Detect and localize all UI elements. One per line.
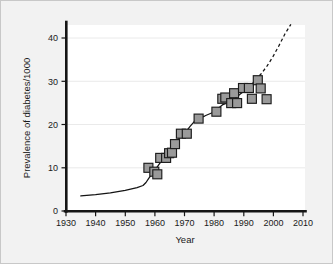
data-point <box>153 170 162 179</box>
diabetes-prevalence-chart: 0 10 20 30 40 1930 1940 1950 1960 1970 1… <box>0 0 333 264</box>
data-point <box>244 84 253 93</box>
figure-container: 0 10 20 30 40 1930 1940 1950 1960 1970 1… <box>0 0 333 264</box>
y-axis-tick-labels: 0 10 20 30 40 <box>48 33 58 216</box>
plot-area-background <box>66 25 305 211</box>
x-tick-label-1990: 1990 <box>234 218 254 228</box>
data-point <box>256 84 265 93</box>
y-tick-label-40: 40 <box>48 33 58 43</box>
x-tick-label-2010: 2010 <box>293 218 313 228</box>
y-axis-title: Prevalence of diabetes/1000 <box>21 58 32 178</box>
x-axis-title: Year <box>175 234 194 245</box>
data-point <box>212 107 221 116</box>
x-tick-label-1930: 1930 <box>56 218 76 228</box>
data-point <box>171 140 180 149</box>
data-point <box>262 95 271 104</box>
x-tick-label-2000: 2000 <box>263 218 283 228</box>
x-tick-label-1950: 1950 <box>115 218 135 228</box>
y-tick-label-20: 20 <box>48 120 58 130</box>
x-tick-label-1960: 1960 <box>145 218 165 228</box>
data-point <box>182 129 191 138</box>
data-point <box>233 99 242 108</box>
x-tick-label-1940: 1940 <box>86 218 106 228</box>
x-tick-label-1980: 1980 <box>204 218 224 228</box>
y-tick-label-10: 10 <box>48 163 58 173</box>
data-point <box>194 114 203 123</box>
y-tick-label-0: 0 <box>53 206 58 216</box>
data-point <box>230 89 239 98</box>
data-point <box>247 94 256 103</box>
data-point <box>168 148 177 157</box>
y-tick-label-30: 30 <box>48 77 58 87</box>
x-axis-tick-labels: 1930 1940 1950 1960 1970 1980 1990 2000 … <box>56 218 313 228</box>
x-tick-label-1970: 1970 <box>174 218 194 228</box>
